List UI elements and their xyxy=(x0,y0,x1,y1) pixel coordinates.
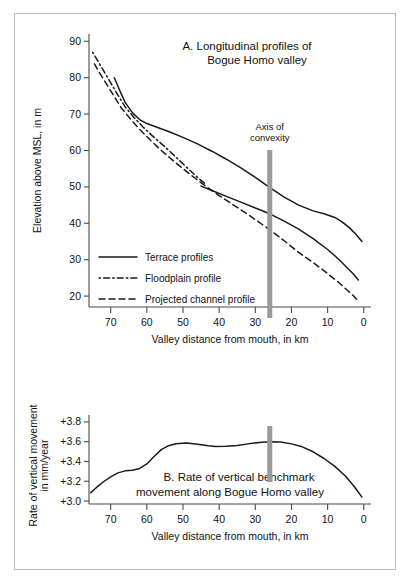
panel-b-xtick-label: 40 xyxy=(213,513,225,525)
panel-a-xtick-label: 0 xyxy=(361,316,367,328)
axis-of-convexity-label-line1: Axis of xyxy=(256,121,285,132)
panel-b-ylabel-line2: in mm/year xyxy=(38,439,50,491)
panel-a-series-line xyxy=(114,78,362,242)
axis-of-convexity-bar-panel-b xyxy=(267,426,272,482)
panel-a-xtick-label: 10 xyxy=(322,316,334,328)
panel-a-series-line xyxy=(94,64,358,301)
panel-a-xtick-label: 40 xyxy=(213,316,225,328)
panel-a-series-line xyxy=(93,52,205,183)
panel-b-xtick-label: 0 xyxy=(361,513,367,525)
figure-frame: 9080706050403020706050403020100Valley di… xyxy=(14,13,396,570)
figure-canvas: 9080706050403020706050403020100Valley di… xyxy=(15,14,395,569)
panel-a-ytick-label: 30 xyxy=(69,253,81,265)
panel-b-ytick-label: +3.0 xyxy=(60,495,81,507)
legend-label: Floodplain profile xyxy=(145,273,222,284)
panel-b-title: B. Rate of vertical benchmark xyxy=(164,471,315,483)
panel-a-xtick-label: 60 xyxy=(141,316,153,328)
panel-a-ytick-label: 70 xyxy=(69,108,81,120)
panel-a-ytick-label: 50 xyxy=(69,180,81,192)
legend-label: Terrace profiles xyxy=(145,252,213,263)
panel-b-ytick-label: +3.8 xyxy=(60,415,81,427)
panel-b-ytick-label: +3.4 xyxy=(60,455,81,467)
panel-b-xtick-label: 50 xyxy=(177,513,189,525)
panel-a-xtick-label: 70 xyxy=(105,316,117,328)
panel-a-xlabel: Valley distance from mouth, in km xyxy=(152,333,309,345)
panel-a-title: A. Longitudinal profiles of xyxy=(182,40,312,52)
panel-a-xtick-label: 50 xyxy=(177,316,189,328)
panel-a-ylabel: Elevation above MSL, in m xyxy=(31,108,43,233)
panel-a-xtick-label: 20 xyxy=(286,316,298,328)
panel-a-ytick-label: 60 xyxy=(69,144,81,156)
panel-b-xtick-label: 70 xyxy=(105,513,117,525)
axis-of-convexity-bar-panel-a xyxy=(267,150,272,318)
panel-b-title-line2: movement along Bogue Homo valley xyxy=(136,486,324,498)
panel-a-ytick-label: 20 xyxy=(69,290,81,302)
panel-a-ytick-label: 80 xyxy=(69,71,81,83)
panel-b-xtick-label: 30 xyxy=(249,513,261,525)
panel-b-xtick-label: 10 xyxy=(322,513,334,525)
panel-a-xtick-label: 30 xyxy=(249,316,261,328)
panel-b-xlabel: Valley distance from mouth, in km xyxy=(152,530,309,542)
panel-a-series-line xyxy=(201,186,358,280)
panel-b-xtick-label: 60 xyxy=(141,513,153,525)
panel-a-ytick-label: 90 xyxy=(69,35,81,47)
panel-b-xtick-label: 20 xyxy=(286,513,298,525)
panel-b-ytick-label: +3.2 xyxy=(60,475,81,487)
panel-a-title-line2: Bogue Homo valley xyxy=(207,54,307,66)
panel-a-ytick-label: 40 xyxy=(69,217,81,229)
panel-b-ytick-label: +3.6 xyxy=(60,435,81,447)
legend-label: Projected channel profile xyxy=(145,294,256,305)
panel-a-legend: Terrace profilesFloodplain profileProjec… xyxy=(99,252,256,305)
axis-of-convexity-label-line2: convexity xyxy=(250,132,290,143)
